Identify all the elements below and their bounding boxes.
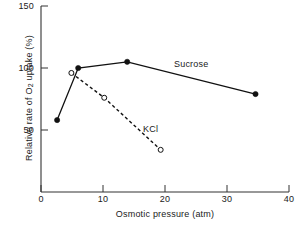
data-point-sucrose-1 — [76, 65, 81, 70]
data-point-sucrose-2 — [125, 59, 130, 64]
series-label-kcl: KCl — [143, 124, 158, 134]
series-label-sucrose: Sucrose — [174, 59, 208, 69]
x-axis-title: Osmotic pressure (atm) — [41, 209, 289, 219]
data-point-kcl-0 — [69, 70, 74, 75]
plot-area — [0, 0, 303, 227]
y-axis-title: Relative rate of O2 uptake (%) — [24, 13, 34, 183]
x-tick-label-10: 10 — [93, 194, 113, 204]
data-point-sucrose-0 — [55, 117, 60, 122]
x-tick-label-20: 20 — [155, 194, 175, 204]
data-point-sucrose-3 — [253, 91, 258, 96]
y-axis-title-subscript: 2 — [27, 83, 34, 87]
x-tick-label-40: 40 — [279, 194, 299, 204]
x-tick-label-30: 30 — [217, 194, 237, 204]
y-axis-title-pre: Relative rate of O — [24, 87, 34, 161]
data-point-kcl-2 — [158, 147, 163, 152]
chart-figure: 150 100 50 0 10 20 30 40 Osmotic pressur… — [0, 0, 303, 227]
y-axis-title-post: uptake (%) — [24, 35, 34, 83]
data-point-kcl-1 — [102, 95, 107, 100]
series-line-kcl — [71, 73, 160, 150]
y-tick-label-150: 150 — [8, 1, 34, 11]
series-line-sucrose — [57, 62, 255, 120]
series-layer — [55, 59, 259, 152]
x-tick-label-0: 0 — [31, 194, 51, 204]
